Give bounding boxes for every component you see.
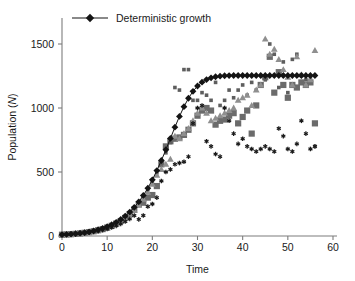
data-point <box>191 99 195 103</box>
data-point <box>232 131 236 136</box>
data-point <box>271 90 277 96</box>
data-point <box>285 95 291 101</box>
data-point <box>286 147 290 152</box>
data-point <box>223 99 227 103</box>
data-point <box>295 142 299 147</box>
data-point <box>155 195 159 200</box>
data-point <box>241 83 245 87</box>
data-point <box>236 142 240 147</box>
data-point <box>208 107 214 113</box>
data-point <box>240 114 246 120</box>
data-point <box>167 156 174 162</box>
data-point <box>290 149 294 154</box>
data-point <box>249 131 255 137</box>
data-point <box>282 60 286 64</box>
data-point <box>227 88 231 92</box>
data-point <box>181 103 188 110</box>
data-point <box>209 99 213 103</box>
data-point <box>164 170 168 175</box>
data-point <box>294 53 301 59</box>
data-point <box>176 113 183 120</box>
data-point <box>153 167 160 174</box>
data-point <box>245 144 249 149</box>
x-tick-label-0: 0 <box>59 241 65 253</box>
data-point <box>173 86 177 90</box>
data-point <box>214 81 218 85</box>
data-point <box>259 147 263 152</box>
x-tick-label-10: 10 <box>101 241 113 253</box>
data-point <box>146 204 150 209</box>
data-point <box>177 161 181 166</box>
y-axis-title: Population (N) <box>6 93 18 160</box>
data-point <box>277 126 281 131</box>
y-tick-label-1000: 1000 <box>31 102 55 114</box>
data-point <box>150 202 154 207</box>
data-point <box>187 68 191 72</box>
figure-container: 0102030405060050010001500TimePopulation … <box>0 0 355 281</box>
data-point <box>262 35 269 41</box>
data-point <box>178 88 182 92</box>
x-tick-label-30: 30 <box>192 241 204 253</box>
y-tick-label-0: 0 <box>48 230 54 242</box>
data-point <box>200 91 204 95</box>
data-point <box>232 96 236 100</box>
data-point <box>268 42 272 46</box>
data-point <box>235 120 241 126</box>
data-point <box>182 159 186 164</box>
data-point <box>272 52 276 56</box>
data-point <box>149 192 155 198</box>
data-point <box>218 154 222 159</box>
data-point <box>227 119 231 124</box>
data-point <box>168 167 172 172</box>
data-point <box>231 110 237 116</box>
data-point <box>244 92 251 98</box>
x-axis-title: Time <box>186 263 209 275</box>
data-point <box>230 105 237 111</box>
data-point <box>254 149 258 154</box>
data-point <box>214 152 218 157</box>
data-point <box>299 119 303 124</box>
data-point <box>304 131 308 136</box>
data-point <box>308 147 312 152</box>
data-point <box>272 149 276 154</box>
data-point <box>291 58 295 62</box>
y-tick-label-500: 500 <box>36 166 54 178</box>
data-point <box>172 124 179 131</box>
data-point <box>205 93 209 97</box>
data-point <box>137 217 141 222</box>
data-point <box>182 68 186 72</box>
data-point <box>173 162 177 167</box>
data-point <box>244 107 250 113</box>
data-point <box>205 139 209 144</box>
x-tick-label-40: 40 <box>237 241 249 253</box>
data-point <box>286 91 290 95</box>
scatter-chart: 0102030405060050010001500TimePopulation … <box>0 0 355 281</box>
data-point <box>185 95 192 102</box>
legend-marker-diamond <box>86 14 94 22</box>
data-point <box>186 154 190 159</box>
data-point <box>277 86 281 90</box>
data-point <box>281 134 285 139</box>
data-point <box>196 99 200 103</box>
data-point <box>275 56 282 62</box>
y-tick-label-1500: 1500 <box>31 38 55 50</box>
data-point <box>159 179 163 184</box>
x-tick-label-60: 60 <box>327 241 339 253</box>
data-point <box>312 120 318 126</box>
x-tick-label-20: 20 <box>146 241 158 253</box>
data-point <box>241 136 245 141</box>
data-point <box>280 82 286 88</box>
legend-label-deterministic-growth: Deterministic growth <box>116 12 211 24</box>
data-point <box>196 106 200 111</box>
data-point <box>141 213 145 218</box>
data-point <box>223 106 227 111</box>
data-point <box>132 213 136 218</box>
data-point <box>236 88 240 92</box>
data-point <box>250 81 254 85</box>
data-point <box>312 47 319 53</box>
data-point <box>250 147 254 152</box>
data-point <box>263 144 267 149</box>
data-point <box>268 147 272 152</box>
x-tick-label-50: 50 <box>282 241 294 253</box>
data-point <box>312 72 319 79</box>
